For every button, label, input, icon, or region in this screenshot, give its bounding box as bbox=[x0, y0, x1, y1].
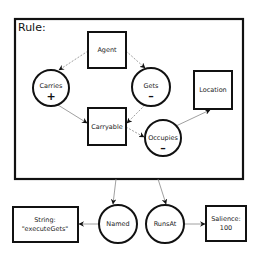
edge-agent-gets bbox=[126, 51, 145, 68]
node-carries-label: Carries bbox=[40, 82, 64, 90]
node-carryable[interactable]: Carryable bbox=[88, 108, 126, 145]
node-runsat-label: RunsAt bbox=[154, 220, 177, 228]
minus-sign-icon: – bbox=[148, 90, 154, 103]
node-agent-label: Agent bbox=[97, 46, 117, 54]
node-occupies-label: Occupies bbox=[148, 134, 178, 142]
rule-diagram: Rule: Agent Carries + Gets – Location Ca… bbox=[0, 0, 260, 257]
node-occupies[interactable]: Occupies – bbox=[145, 120, 181, 156]
node-runsat[interactable]: RunsAt bbox=[146, 205, 184, 243]
node-location-label: Location bbox=[199, 86, 227, 94]
node-location[interactable]: Location bbox=[194, 71, 232, 109]
node-agent[interactable]: Agent bbox=[88, 32, 126, 68]
node-string-type: String: bbox=[34, 216, 56, 224]
node-string-value: "executeGets" bbox=[22, 225, 69, 233]
node-named-label: Named bbox=[106, 220, 129, 228]
edge-gets-carryable bbox=[127, 105, 145, 123]
edge-occupies-location bbox=[176, 110, 210, 126]
node-salience-value: 100 bbox=[220, 224, 232, 232]
rule-title: Rule: bbox=[18, 21, 46, 34]
node-gets-label: Gets bbox=[144, 82, 160, 90]
edge-agent-carries bbox=[59, 51, 88, 70]
edge-rule-runsat bbox=[158, 179, 166, 204]
edge-carryable-occupies bbox=[126, 127, 144, 137]
node-carryable-label: Carryable bbox=[91, 123, 123, 131]
node-named[interactable]: Named bbox=[99, 205, 137, 243]
edge-rule-named bbox=[113, 179, 116, 204]
edge-carries-carryable bbox=[58, 105, 87, 123]
node-salience[interactable]: Salience: 100 bbox=[206, 206, 246, 241]
plus-sign-icon: + bbox=[46, 90, 55, 103]
node-gets[interactable]: Gets – bbox=[132, 68, 170, 106]
node-string[interactable]: String: "executeGets" bbox=[13, 207, 78, 242]
node-carries[interactable]: Carries + bbox=[33, 70, 69, 106]
node-salience-type: Salience: bbox=[211, 215, 241, 223]
minus-sign-icon: – bbox=[160, 142, 166, 155]
